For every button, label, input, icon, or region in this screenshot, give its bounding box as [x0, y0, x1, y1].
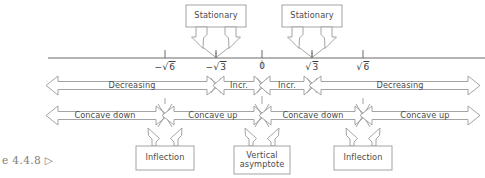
callout-label-inflection-right: Inflection — [344, 153, 383, 162]
callout-inflection-right — [334, 128, 392, 170]
segment-label-decreasing-right: Decreasing — [376, 81, 423, 90]
tick-label-neg-sqrt3: −√3 — [206, 61, 227, 72]
minus-sign: − — [155, 62, 163, 72]
pointer-right-prong — [268, 128, 280, 146]
axis-line-group — [48, 50, 485, 58]
callout-inflection-left — [136, 128, 194, 170]
radicand: 3 — [220, 61, 227, 72]
tick-label-pos-sqrt6: √6 — [356, 61, 369, 72]
pointer-left-prong — [346, 128, 358, 146]
segment-label-increasing-left: Incr. — [230, 81, 248, 90]
pointer-left-prong — [245, 128, 257, 146]
tick-label-neg-sqrt6: −√6 — [155, 61, 176, 72]
radicand: 6 — [169, 61, 176, 72]
radicand: 3 — [312, 61, 319, 72]
radical-sign: √ — [162, 61, 168, 72]
segment-label-decreasing-left: Decreasing — [108, 81, 155, 90]
segment-label-concave-down-left: Concave down — [74, 111, 135, 120]
callout-label-vertical-asymptote: Vertical asymptote — [240, 151, 285, 169]
segment-label-concave-down-right: Concave down — [282, 111, 343, 120]
pointer-left-prong — [192, 27, 208, 49]
callout-label-stationary-right: Stationary — [290, 11, 333, 20]
callout-label-stationary-left: Stationary — [194, 11, 237, 20]
figure-caption: e 4.4.8 ▷ — [2, 154, 53, 166]
pointer-right-prong — [225, 27, 241, 49]
radical-sign: √ — [356, 61, 362, 72]
radical-sign: √ — [305, 61, 311, 72]
callout-label-inflection-left: Inflection — [146, 153, 185, 162]
minus-sign: − — [206, 62, 214, 72]
tick-label-pos-sqrt3: √3 — [305, 61, 318, 72]
pointer-left-prong — [148, 128, 160, 146]
va-line-2: asymptote — [240, 159, 285, 169]
figure-canvas: .ln{fill:none;stroke:#9a9a9a;stroke-widt… — [0, 0, 485, 178]
segment-label-concave-up-left: Concave up — [188, 111, 237, 120]
segment-label-concave-up-right: Concave up — [400, 111, 449, 120]
pointer-right-prong — [369, 128, 381, 146]
radicand: 6 — [363, 61, 370, 72]
pointer-left-prong — [288, 27, 304, 49]
pointer-right-prong — [321, 27, 337, 49]
radical-sign: √ — [213, 61, 219, 72]
segment-label-increasing-right: Incr. — [278, 81, 296, 90]
tick-label-zero: 0 — [259, 61, 265, 71]
pointer-right-prong — [171, 128, 183, 146]
